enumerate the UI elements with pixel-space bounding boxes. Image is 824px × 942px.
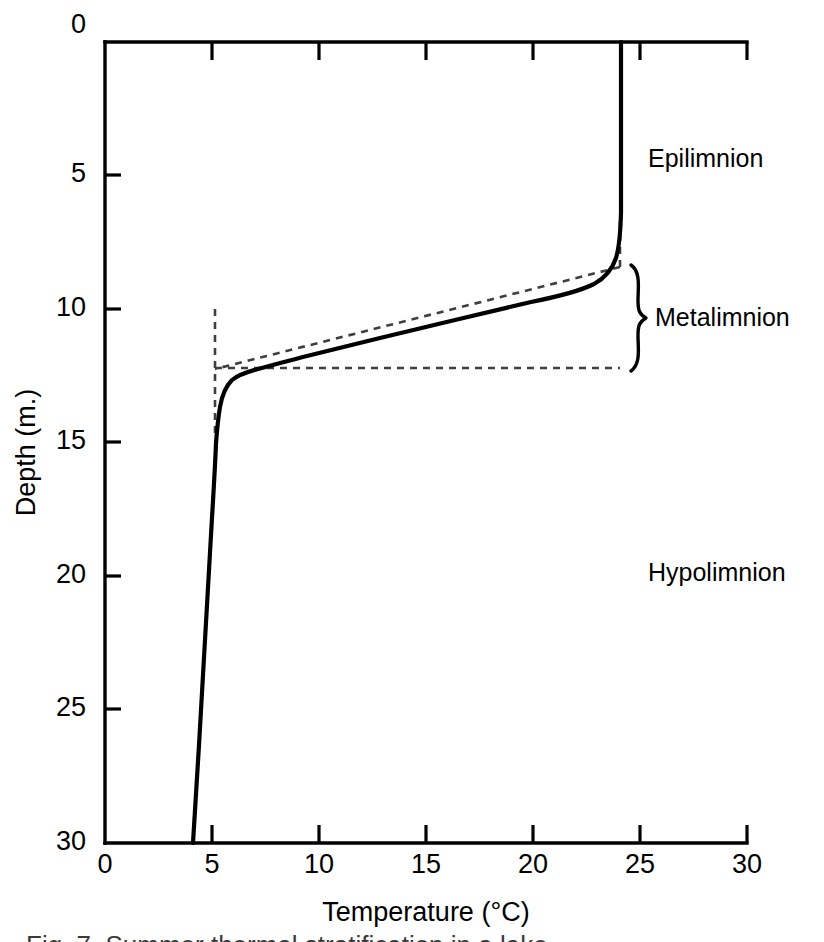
chart-canvas	[0, 0, 824, 942]
epilimnion-label: Epilimnion	[648, 144, 763, 173]
metalimnion-label: Metalimnion	[655, 303, 790, 332]
figure-caption-fragment: Fig. 7. Summer thermal stratification in…	[0, 930, 824, 942]
y-axis-title: Depth (m.)	[11, 343, 42, 563]
x-tick-label-30: 30	[717, 849, 777, 880]
x-tick-label-10: 10	[289, 849, 349, 880]
x-tick-label-25: 25	[610, 849, 670, 880]
y-tick-label-0: 0	[22, 9, 86, 40]
y-axis-ticks	[105, 175, 121, 709]
x-tick-label-20: 20	[503, 849, 563, 880]
hypolimnion-label: Hypolimnion	[648, 558, 786, 587]
x-axis-title: Temperature (°C)	[105, 897, 747, 928]
y-tick-label-20: 20	[22, 559, 86, 590]
y-tick-label-5: 5	[22, 158, 86, 189]
x-tick-label-5: 5	[182, 849, 242, 880]
x-tick-label-0: 0	[75, 849, 135, 880]
y-tick-label-10: 10	[22, 292, 86, 323]
upper-oblique-dashed-line	[215, 267, 620, 369]
x-tick-label-15: 15	[396, 849, 456, 880]
thermal-stratification-figure: 0 5 10 15 20 25 30 0 5 10 15 20 25 30 De…	[0, 0, 824, 942]
y-tick-label-25: 25	[22, 692, 86, 723]
temperature-profile-curve	[193, 42, 621, 843]
metalimnion-brace	[631, 265, 646, 371]
